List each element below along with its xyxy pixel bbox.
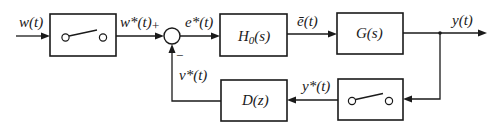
summing-junction [164,28,180,44]
forward-sampler-block [50,14,116,56]
block-label-h0-s: H0(s) [237,28,270,46]
input-signal-line [16,33,50,40]
label-e-bar-t: ē(t) [297,13,318,30]
minus-sign: − [176,48,183,63]
output-signal-line [403,30,487,37]
label-e-star-t: e*(t) [185,14,213,31]
block-label-g-s: G(s) [356,25,383,42]
controller-block: D(z) [221,80,287,121]
zero-order-hold-block: H0(s) [220,14,287,56]
label-v-star-t: v*(t) [179,67,207,84]
block-diagram: w(t) w*(t) + − e*(t) H0(s) ē(t) [0,0,488,131]
label-y-star-t: y*(t) [300,78,330,95]
label-w-t: w(t) [19,14,43,31]
error-signal-line [180,33,220,40]
label-y-t: y(t) [450,12,473,29]
sampled-output-line [287,97,338,104]
label-w-star-t: w*(t) [120,14,152,31]
block-label-d-z: D(z) [241,92,269,109]
feedback-sampler-block [338,79,403,120]
plant-block: G(s) [337,13,403,54]
hold-output-line [287,31,337,38]
plus-sign: + [152,18,159,33]
sampled-input-line [116,33,164,40]
feedback-branch-line [403,33,440,103]
